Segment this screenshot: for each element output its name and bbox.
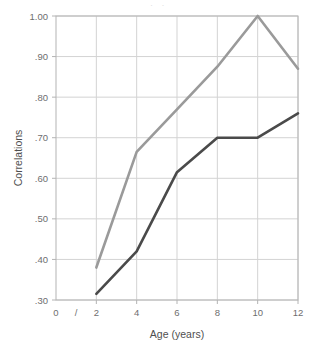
x-tick-label: 4 bbox=[134, 307, 139, 318]
x-axis-break-marker: / bbox=[75, 307, 78, 318]
x-tick-label: 12 bbox=[293, 307, 304, 318]
y-tick-label: 1.00 bbox=[30, 11, 49, 22]
x-tick-label: 8 bbox=[215, 307, 220, 318]
y-axis-title: Correlations bbox=[12, 130, 24, 187]
y-tick-label: .40 bbox=[35, 254, 48, 265]
data-series bbox=[96, 16, 298, 294]
x-tick-label: 10 bbox=[252, 307, 263, 318]
y-tick-label: .90 bbox=[35, 51, 48, 62]
x-tick-label: 6 bbox=[174, 307, 179, 318]
grid-lines bbox=[56, 16, 298, 300]
y-tick-label: .60 bbox=[35, 173, 48, 184]
axis-break-slash: / bbox=[75, 307, 78, 318]
y-tick-label: .50 bbox=[35, 213, 48, 224]
y-tick-labels: 1.00.90.80.70.60.50.40.30 bbox=[30, 11, 57, 306]
x-tick-label: 0 bbox=[53, 307, 58, 318]
line-series-lower bbox=[96, 113, 298, 294]
x-tick-labels: 024681012 bbox=[53, 300, 303, 318]
chart-canvas: 1.00.90.80.70.60.50.40.30 024681012 / Ag… bbox=[0, 0, 315, 344]
y-tick-label: .80 bbox=[35, 92, 48, 103]
x-tick-label: 2 bbox=[94, 307, 99, 318]
x-axis-title: Age (years) bbox=[150, 328, 204, 340]
y-tick-label: .30 bbox=[35, 295, 48, 306]
y-tick-label: .70 bbox=[35, 132, 48, 143]
line-series-upper bbox=[96, 16, 298, 268]
correlations-line-chart: · · 1.00.90.80.70.60.50.40.30 024681012 … bbox=[0, 0, 315, 344]
